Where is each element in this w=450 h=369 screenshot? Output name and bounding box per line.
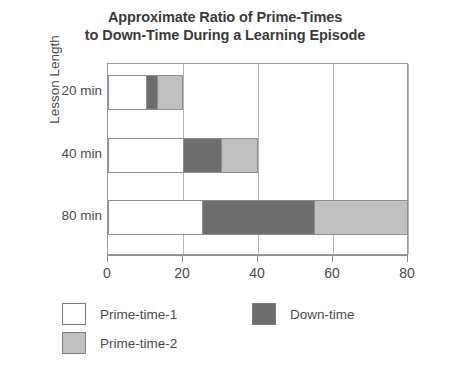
legend-swatch-prime-time-1	[62, 303, 86, 325]
y-tick-label-20-min: 20 min	[32, 83, 102, 98]
x-tick-0	[107, 255, 108, 262]
y-tick-label-80-min: 80 min	[32, 208, 102, 223]
bar-segment-prime-time-1[interactable]	[108, 138, 183, 173]
legend-entry-prime-time-2[interactable]: Prime-time-2	[62, 332, 177, 354]
bar-80-min[interactable]	[108, 200, 408, 235]
legend-label-prime-time-2: Prime-time-2	[100, 336, 177, 351]
x-tick-label-20: 20	[162, 265, 202, 281]
chart-legend: Prime-time-1Down-timePrime-time-2	[62, 303, 402, 359]
x-axis: 020406080	[107, 255, 408, 295]
bar-segment-prime-time-1[interactable]	[108, 200, 202, 235]
bar-segment-prime-time-2[interactable]	[314, 200, 408, 235]
bar-40-min[interactable]	[108, 138, 258, 173]
legend-label-down-time: Down-time	[290, 307, 355, 322]
y-axis-tick-labels: 20 min40 min80 min	[30, 63, 102, 255]
bar-segment-down-time[interactable]	[202, 200, 315, 235]
gridline-80	[408, 64, 409, 254]
legend-entry-down-time[interactable]: Down-time	[252, 303, 355, 325]
bar-segment-down-time[interactable]	[183, 138, 221, 173]
legend-label-prime-time-1: Prime-time-1	[100, 307, 177, 322]
bar-segment-prime-time-2[interactable]	[221, 138, 259, 173]
plot-area	[107, 63, 408, 255]
bar-segment-down-time[interactable]	[146, 75, 157, 110]
bar-20-min[interactable]	[108, 75, 183, 110]
x-tick-40	[257, 255, 258, 262]
x-tick-label-40: 40	[237, 265, 277, 281]
x-tick-label-60: 60	[312, 265, 352, 281]
bar-segment-prime-time-2[interactable]	[157, 75, 183, 110]
legend-entry-prime-time-1[interactable]: Prime-time-1	[62, 303, 177, 325]
x-tick-label-80: 80	[387, 265, 427, 281]
chart-title-line-2: to Down-Time During a Learning Episode	[0, 26, 450, 44]
chart-title-line-1: Approximate Ratio of Prime-Times	[0, 8, 450, 26]
x-tick-20	[182, 255, 183, 262]
legend-swatch-prime-time-2	[62, 332, 86, 354]
bar-segment-prime-time-1[interactable]	[108, 75, 146, 110]
x-tick-80	[407, 255, 408, 262]
legend-swatch-down-time	[252, 303, 276, 325]
chart-figure: Approximate Ratio of Prime-Times to Down…	[0, 0, 450, 369]
y-tick-label-40-min: 40 min	[32, 146, 102, 161]
x-tick-label-0: 0	[87, 265, 127, 281]
x-tick-60	[332, 255, 333, 262]
chart-title: Approximate Ratio of Prime-Times to Down…	[0, 8, 450, 44]
